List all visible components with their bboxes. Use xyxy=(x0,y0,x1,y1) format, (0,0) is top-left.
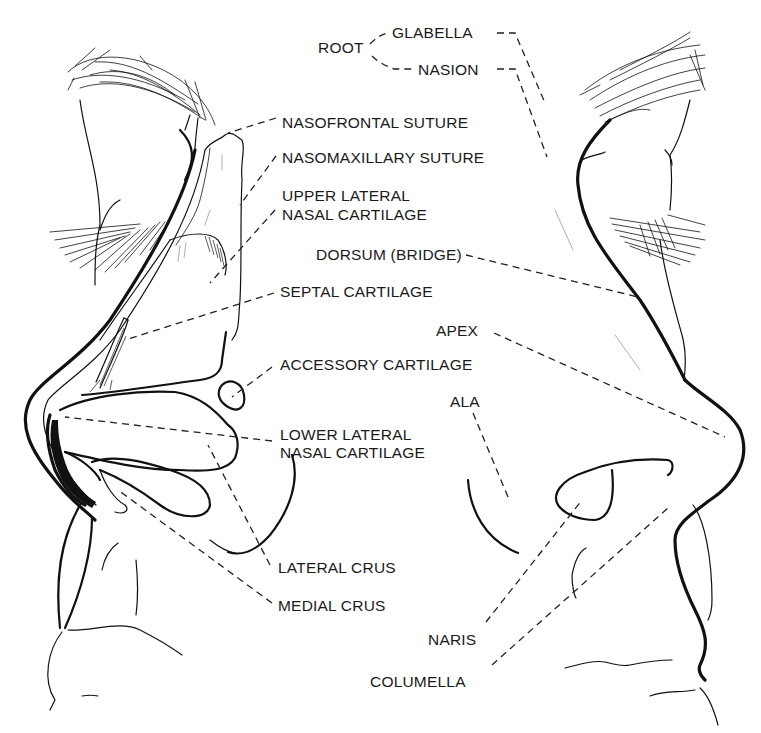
label-nasofrontal-suture: NASOFRONTAL SUTURE xyxy=(282,113,468,132)
right-naris xyxy=(556,460,672,521)
right-nose-profile xyxy=(555,210,744,725)
label-glabella: GLABELLA xyxy=(392,23,473,42)
label-apex: APEX xyxy=(436,321,478,340)
label-lateral-crus: LATERAL CRUS xyxy=(278,558,396,577)
label-lower-lateral-line1: LOWER LATERAL xyxy=(280,425,412,444)
label-septal-cartilage: SEPTAL CARTILAGE xyxy=(280,282,433,301)
lower-lateral-cartilage xyxy=(48,392,238,508)
left-eyebrow xyxy=(68,48,215,125)
label-columella: COLUMELLA xyxy=(370,672,466,691)
label-lower-lateral-line2: NASAL CARTILAGE xyxy=(280,443,425,462)
right-eyelashes xyxy=(610,215,705,265)
left-eyelid xyxy=(80,100,192,285)
label-nasion: NASION xyxy=(418,60,479,79)
label-medial-crus: MEDIAL CRUS xyxy=(278,596,386,615)
label-dorsum: DORSUM (BRIDGE) xyxy=(316,245,462,264)
label-ala: ALA xyxy=(450,392,480,411)
nasal-bone xyxy=(176,133,243,340)
label-root: ROOT xyxy=(318,38,364,57)
right-eye-area xyxy=(578,100,690,380)
label-nasomaxillary-suture: NASOMAXILLARY SUTURE xyxy=(282,148,484,167)
left-eyelashes xyxy=(50,220,170,272)
label-upper-lateral-line1: UPPER LATERAL xyxy=(282,186,410,205)
right-eyebrow xyxy=(580,32,705,122)
nose-anatomy-diagram: ROOT GLABELLA NASION NASOFRONTAL SUTURE … xyxy=(0,0,761,733)
left-face-lower xyxy=(48,505,182,710)
label-upper-lateral-line2: NASAL CARTILAGE xyxy=(282,205,427,224)
right-ala xyxy=(468,480,518,553)
label-naris: NARIS xyxy=(428,630,476,649)
upper-lateral-cartilage xyxy=(100,234,226,340)
label-accessory-cartilage: ACCESSORY CARTILAGE xyxy=(280,355,472,374)
accessory-cartilage xyxy=(219,382,245,410)
